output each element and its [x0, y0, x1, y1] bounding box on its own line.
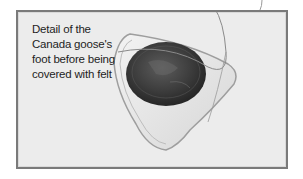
wire-outside-frame: [0, 0, 303, 179]
